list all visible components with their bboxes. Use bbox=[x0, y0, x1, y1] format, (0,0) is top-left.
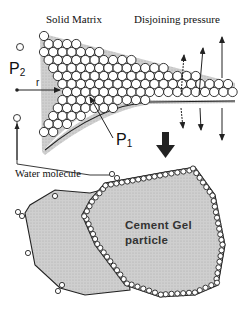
cement-gel-line1: Cement Gel bbox=[125, 218, 192, 233]
transition-down-arrow bbox=[156, 132, 175, 158]
water-molecules-cluster bbox=[39, 31, 237, 136]
p2-subscript: 2 bbox=[20, 67, 26, 78]
diagram-canvas: Solid Matrix Disjoining pressure P2 r P1… bbox=[0, 0, 251, 314]
p1-subscript: 1 bbox=[127, 138, 133, 149]
p1-label: P1 bbox=[116, 131, 132, 149]
p1-letter: P bbox=[116, 131, 127, 148]
radius-label: r bbox=[36, 77, 39, 88]
p2-label: P2 bbox=[9, 60, 25, 78]
free-water-molecule bbox=[17, 44, 24, 51]
disjoining-pressure-label: Disjoining pressure bbox=[134, 13, 220, 25]
cement-gel-line2: particle bbox=[125, 233, 192, 248]
free-water-molecule bbox=[14, 115, 21, 122]
water-molecule-label: Water molecule bbox=[15, 168, 81, 179]
diagram-svg bbox=[0, 0, 251, 314]
p2-letter: P bbox=[9, 60, 20, 77]
cement-gel-label: Cement Gel particle bbox=[125, 218, 192, 248]
solid-matrix-label: Solid Matrix bbox=[46, 13, 102, 25]
